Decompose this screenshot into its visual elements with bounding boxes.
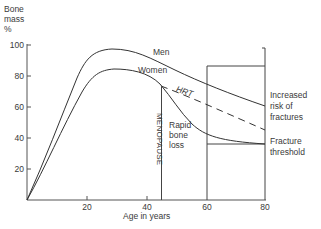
fracture-threshold-label-line1: Fracture: [270, 136, 302, 146]
x-tick-60: 60: [197, 202, 217, 212]
menopause-label: MENOPAUSE: [155, 113, 164, 165]
women-label: Women: [138, 65, 167, 75]
increased-risk-label-line3: fractures: [270, 112, 303, 122]
y-tick-20: 20: [4, 164, 24, 174]
x-tick-20: 20: [77, 202, 97, 212]
x-axis-label: Age in years: [123, 211, 170, 221]
men-label: Men: [153, 47, 170, 57]
y-axis-label-line2: mass: [4, 14, 24, 24]
increased-risk-label-line2: risk of: [270, 101, 293, 111]
y-tick-40: 40: [4, 133, 24, 143]
rapid-bone-loss-line3: loss: [169, 140, 184, 150]
rapid-bone-loss-line2: bone: [169, 130, 188, 140]
y-tick-100: 100: [4, 40, 24, 50]
bone-mass-chart: Bone mass % 100 80 60 40 20 20 40 60 80 …: [0, 0, 321, 229]
y-axis-label-line3: %: [4, 24, 12, 34]
increased-risk-label-line1: Increased: [270, 90, 307, 100]
y-axis-label-line1: Bone: [4, 4, 24, 14]
x-tick-80: 80: [255, 202, 275, 212]
y-tick-60: 60: [4, 102, 24, 112]
y-tick-80: 80: [4, 71, 24, 81]
fracture-threshold-label-line2: threshold: [270, 147, 305, 157]
rapid-bone-loss-line1: Rapid: [169, 120, 191, 130]
women-curve: [27, 69, 265, 200]
